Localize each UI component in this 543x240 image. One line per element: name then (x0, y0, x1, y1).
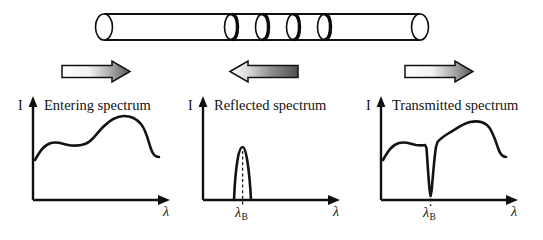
arrow-left-icon (230, 61, 298, 82)
entering-y-axis-label: I (18, 99, 23, 113)
arrow-transmitted (405, 61, 473, 82)
figure-canvas (0, 0, 543, 240)
bragg-grating (225, 14, 331, 39)
transmitted-bragg-subscript: B (429, 212, 435, 222)
figure-root: I Entering spectrum λ I Reflected spectr… (0, 0, 543, 240)
transmitted-y-axis-arrow-icon (377, 96, 386, 107)
transmitted-spectrum-curve (383, 121, 506, 196)
entering-x-axis-label: λ (163, 205, 169, 219)
reflected-panel-title: Reflected spectrum (214, 98, 326, 113)
reflected-x-axis-label: λ (333, 205, 339, 219)
transmitted-panel-title: Transmitted spectrum (392, 98, 518, 113)
arrow-right-icon (405, 61, 473, 82)
transmitted-x-axis-label: λ (511, 205, 517, 219)
optical-fiber (96, 14, 429, 40)
entering-y-axis-arrow-icon (29, 96, 38, 107)
arrow-right-icon (62, 61, 130, 82)
reflected-y-axis-label: I (188, 99, 193, 113)
reflected-bragg-label: λB (235, 206, 247, 220)
entering-panel-title: Entering spectrum (44, 98, 151, 113)
entering-spectrum-curve (35, 116, 159, 160)
fiber-left-cap-icon (96, 14, 113, 40)
transmitted-bragg-label: λB (423, 206, 435, 220)
arrow-reflected (230, 61, 298, 82)
reflected-y-axis-arrow-icon (199, 96, 208, 107)
fiber-right-cap-icon (412, 14, 429, 40)
reflected-bragg-subscript: B (241, 212, 247, 222)
arrow-incident (62, 61, 130, 82)
transmitted-y-axis-label: I (366, 99, 371, 113)
